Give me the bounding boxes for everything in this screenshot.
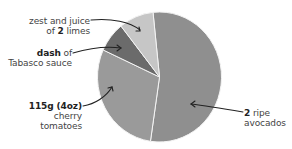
label-limes: zest and juice of 2 limes — [24, 16, 90, 36]
label-limes-line1: zest and juice — [24, 16, 90, 26]
label-avocados: 2 ripe avocados — [244, 108, 286, 128]
label-tabasco: dash of Tabasco sauce — [0, 48, 72, 68]
pie-slice-avocados — [150, 12, 221, 142]
pie-slices — [98, 12, 222, 142]
label-tomatoes: 115g (4oz) cherry tomatoes — [10, 101, 82, 131]
label-tabasco-line2: Tabasco sauce — [0, 58, 72, 68]
